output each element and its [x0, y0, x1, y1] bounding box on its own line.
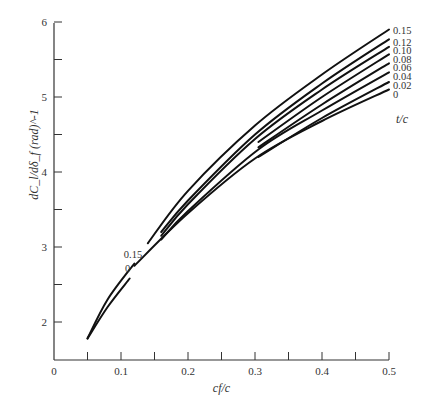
y-tick-label: 5 — [42, 91, 48, 103]
y-tick-label: 3 — [42, 241, 48, 253]
x-tick-label: 0.4 — [315, 365, 329, 377]
legend: 0.150.120.100.080.060.040.020t/c — [393, 25, 412, 126]
axes: 2345600.10.20.30.40.5cf/cdC_l/dδ_f (rad)… — [27, 16, 396, 395]
curve-tc-0 — [134, 90, 389, 266]
legend-label: 0 — [393, 89, 398, 100]
x-tick-label: 0.2 — [181, 365, 195, 377]
y-tick-label: 2 — [42, 316, 48, 328]
x-tick-label: 0 — [51, 365, 57, 377]
legend-title: t/c — [396, 112, 409, 126]
legend-label: 0.15 — [393, 25, 411, 36]
x-tick-label: 0.1 — [114, 365, 128, 377]
x-axis-title: cf/c — [213, 381, 231, 395]
x-tick-label: 0.5 — [382, 365, 396, 377]
x-tick-label: 0.3 — [248, 365, 262, 377]
chart: 2345600.10.20.30.40.5cf/cdC_l/dδ_f (rad)… — [0, 0, 426, 408]
curve-tc-0 — [88, 279, 130, 339]
y-axis-title: dC_l/dδ_f (rad)^-1 — [27, 109, 41, 199]
curve-tc-0.06 — [258, 63, 389, 147]
curves — [88, 30, 390, 339]
y-tick-label: 4 — [42, 166, 48, 178]
curve-annotation: 0 — [125, 263, 130, 274]
curve-annotation: 0.15 — [124, 249, 142, 260]
y-tick-label: 6 — [42, 16, 48, 28]
curve-tc-0.04 — [161, 72, 389, 239]
